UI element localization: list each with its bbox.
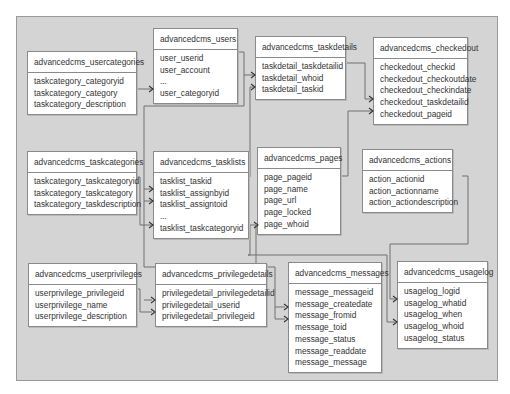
field: ... xyxy=(160,76,231,88)
field: taskcategory_taskcategory xyxy=(34,188,130,200)
field: taskdetail_whoid xyxy=(262,73,339,85)
field: checkedout_checkindate xyxy=(380,85,461,97)
field: user_categoryid xyxy=(160,88,231,100)
field: taskcategory_taskdescription xyxy=(34,199,130,211)
field: action_actionname xyxy=(369,186,446,198)
field: usagelog_status xyxy=(404,333,481,345)
field: message_message xyxy=(295,357,375,369)
table-title: advancedcms_usercategories xyxy=(28,52,136,73)
table-taskdetails[interactable]: advancedcms_taskdetails taskdetail_taskd… xyxy=(255,36,346,100)
field: checkedout_checkid xyxy=(380,62,461,74)
field: userprivilege_privilegeid xyxy=(35,288,130,300)
table-title: advancedcms_taskcategories xyxy=(28,152,136,173)
field: taskcategory_description xyxy=(34,99,130,111)
field: checkedout_pageid xyxy=(380,109,461,121)
table-title: advancedcms_messages xyxy=(289,263,381,284)
field: page_name xyxy=(264,184,334,196)
field: taskdetail_taskid xyxy=(262,84,339,96)
link-taskdetails-checkedout xyxy=(344,63,372,99)
field: checkedout_checkoutdate xyxy=(380,74,461,86)
table-title: advancedcms_privilegedetails xyxy=(156,264,266,285)
field: action_actiondescription xyxy=(369,197,446,209)
table-title: advancedcms_tasklists xyxy=(154,152,248,173)
field: userprivilege_description xyxy=(35,311,130,323)
field: tasklist_assigntoid xyxy=(160,199,242,211)
field: user_account xyxy=(160,65,231,77)
field: privilegedetail_userid xyxy=(162,300,260,312)
field: page_url xyxy=(264,195,334,207)
field: usagelog_logid xyxy=(404,286,481,298)
table-checkedout[interactable]: advancedcms_checkedout checkedout_checki… xyxy=(373,37,468,125)
table-title: advancedcms_taskdetails xyxy=(256,37,345,58)
field: taskcategory_category xyxy=(34,88,130,100)
table-pages[interactable]: advancedcms_pages page_pageid page_name … xyxy=(257,147,341,235)
table-title: advancedcms_pages xyxy=(258,148,340,169)
field: usagelog_whatid xyxy=(404,298,481,310)
link-users-taskdetails-whoid xyxy=(236,52,254,75)
table-privilegedetails[interactable]: advancedcms_privilegedetails privilegede… xyxy=(155,263,267,327)
field: taskdetail_taskdetailid xyxy=(262,61,339,73)
field: tasklist_assignbyid xyxy=(160,188,242,200)
table-messages[interactable]: advancedcms_messages message_messageid m… xyxy=(288,262,382,373)
table-users[interactable]: advancedcms_users user_userid user_accou… xyxy=(153,28,238,104)
table-actions[interactable]: advancedcms_actions action_actionid acti… xyxy=(362,149,453,213)
field: message_status xyxy=(295,334,375,346)
field: ... xyxy=(160,211,242,223)
field: message_createdate xyxy=(295,299,375,311)
field: message_messageid xyxy=(295,287,375,299)
table-tasklists[interactable]: advancedcms_tasklists tasklist_taskid ta… xyxy=(153,151,249,239)
table-title: advancedcms_checkedout xyxy=(374,38,467,59)
table-userprivileges[interactable]: advancedcms_userprivileges userprivilege… xyxy=(28,263,137,327)
field: page_pageid xyxy=(264,172,334,184)
field: tasklist_taskcategoryid xyxy=(160,223,242,235)
field: usagelog_whoid xyxy=(404,321,481,333)
table-usercategories[interactable]: advancedcms_usercategories taskcategory_… xyxy=(27,51,137,115)
field: usagelog_when xyxy=(404,309,481,321)
table-title: advancedcms_userprivileges xyxy=(29,264,136,285)
field: user_userid xyxy=(160,53,231,65)
field: message_readdate xyxy=(295,346,375,358)
field: action_actionid xyxy=(369,174,446,186)
field: checkedout_taskdetailid xyxy=(380,97,461,109)
field: message_fromid xyxy=(295,310,375,322)
table-title: advancedcms_usagelog xyxy=(398,262,487,283)
table-title: advancedcms_users xyxy=(154,29,237,50)
table-usagelog[interactable]: advancedcms_usagelog usagelog_logid usag… xyxy=(397,261,488,349)
link-bus-messages-toid xyxy=(275,307,285,319)
field: taskcategory_categoryid xyxy=(34,76,130,88)
field: privilegedetail_privilegeid xyxy=(162,311,260,323)
field: privilegedetail_privilegedetailid xyxy=(162,288,260,300)
field: page_locked xyxy=(264,207,334,219)
table-taskcategories[interactable]: advancedcms_taskcategories taskcategory_… xyxy=(27,151,137,215)
field: page_whoid xyxy=(264,219,334,231)
table-title: advancedcms_actions xyxy=(363,150,452,171)
field: taskcategory_taskcategoryid xyxy=(34,176,130,188)
field: userprivilege_name xyxy=(35,300,130,312)
field: message_toid xyxy=(295,322,375,334)
field: tasklist_taskid xyxy=(160,176,242,188)
